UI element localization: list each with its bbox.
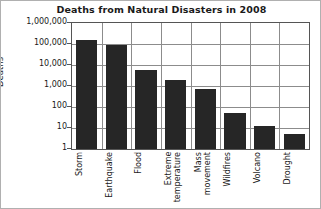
x-axis-tick-label: Drought (283, 152, 304, 185)
x-axis-tick-label: Storm (75, 152, 96, 176)
bar (195, 89, 216, 149)
y-axis-tick-label: 100,000 (1, 39, 67, 47)
x-axis-tick-label: Extreme temperature (164, 152, 185, 202)
plot-area (71, 22, 310, 150)
gridline-vertical (279, 23, 280, 149)
chart-title: Deaths from Natural Disasters in 2008 (1, 4, 321, 15)
y-axis-tick-label: 10 (1, 123, 67, 131)
bar (165, 80, 186, 149)
y-axis-tick-label: 10,000 (1, 60, 67, 68)
gridline-vertical (131, 23, 132, 149)
y-axis-tick-label: 100 (1, 102, 67, 110)
bar (76, 40, 97, 149)
y-axis-tick-label: 1,000 (1, 81, 67, 89)
bar (106, 45, 127, 149)
y-axis-title: Deaths (0, 57, 5, 87)
x-axis-tick-label: Earthquake (105, 152, 126, 198)
x-axis-tick-label: Wildfires (223, 152, 244, 187)
x-axis-tick-label: Mass movement (194, 152, 215, 195)
gridline-vertical (220, 23, 221, 149)
y-axis-tick-label: 1 (1, 144, 67, 152)
y-axis-tick-label: 1,000,000 (1, 18, 67, 26)
x-axis-tick-label: Flood (134, 152, 155, 174)
bar (254, 126, 275, 149)
chart-screenshot: Deaths from Natural Disasters in 2008 1,… (0, 0, 321, 209)
bar (284, 134, 305, 149)
x-axis-tick-label: Volcano (253, 152, 274, 183)
gridline-vertical (191, 23, 192, 149)
gridline-vertical (161, 23, 162, 149)
bar (224, 113, 245, 149)
gridline-vertical (102, 23, 103, 149)
gridline-vertical (250, 23, 251, 149)
bar (135, 70, 156, 149)
